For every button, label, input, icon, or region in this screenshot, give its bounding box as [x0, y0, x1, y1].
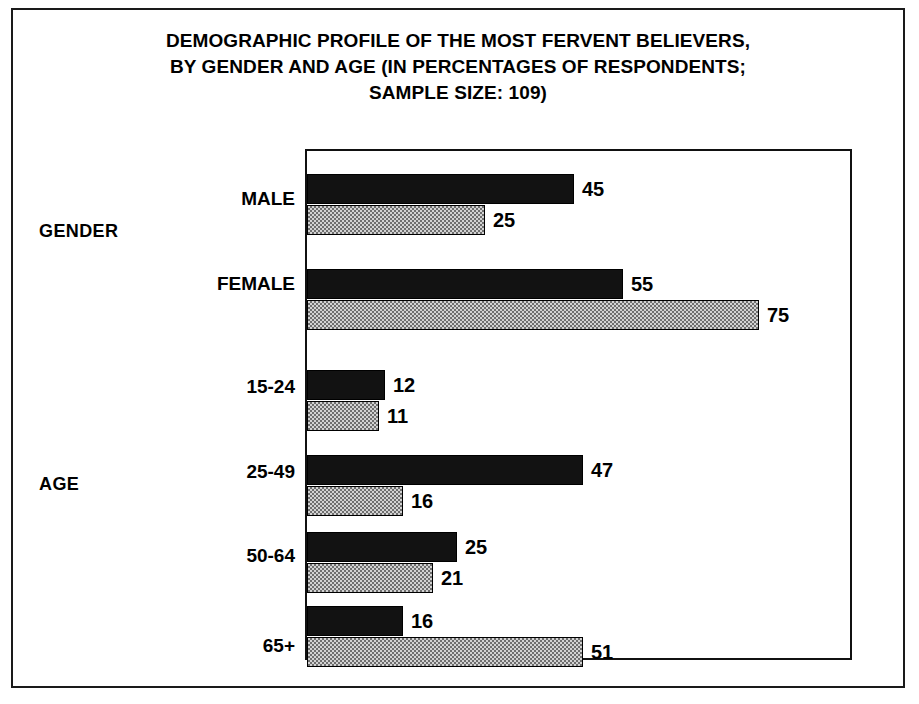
plot-area: 45 25 55 75 12 11 47 16 25 21 16 51: [305, 149, 852, 660]
bar-25-49-stipple: [307, 486, 403, 516]
bar-value-male-stipple: 25: [493, 210, 515, 230]
bar-value-50-64-dark: 25: [465, 537, 487, 557]
bar-value-65plus-stipple: 51: [591, 642, 613, 662]
category-label-65plus: 65+: [263, 636, 295, 655]
bar-female-dark: [307, 269, 623, 299]
bar-value-50-64-stipple: 21: [441, 568, 463, 588]
category-label-15-24: 15-24: [246, 377, 295, 396]
chart-title-line-3: SAMPLE SIZE: 109): [13, 80, 903, 106]
bar-male-dark: [307, 174, 574, 204]
bar-female-stipple: [307, 300, 759, 330]
bar-value-female-dark: 55: [631, 274, 653, 294]
figure-container: DEMOGRAPHIC PROFILE OF THE MOST FERVENT …: [11, 8, 905, 688]
bar-50-64-stipple: [307, 563, 433, 593]
bar-25-49-dark: [307, 455, 583, 485]
bar-65plus-dark: [307, 606, 403, 636]
category-label-25-49: 25-49: [246, 462, 295, 481]
group-label-age: AGE: [39, 475, 79, 493]
bar-value-65plus-dark: 16: [411, 611, 433, 631]
chart-title-line-2: BY GENDER AND AGE (IN PERCENTAGES OF RES…: [13, 54, 903, 80]
chart-title: DEMOGRAPHIC PROFILE OF THE MOST FERVENT …: [13, 28, 903, 106]
category-label-female: FEMALE: [217, 274, 295, 293]
bar-15-24-dark: [307, 370, 385, 400]
bar-value-15-24-stipple: 11: [387, 406, 408, 426]
bar-male-stipple: [307, 205, 485, 235]
bar-15-24-stipple: [307, 401, 379, 431]
category-label-50-64: 50-64: [246, 546, 295, 565]
bar-65plus-stipple: [307, 637, 583, 667]
bar-50-64-dark: [307, 532, 457, 562]
bar-value-15-24-dark: 12: [393, 375, 415, 395]
category-label-male: MALE: [241, 189, 295, 208]
bar-value-25-49-dark: 47: [591, 460, 613, 480]
category-label-column: MALE FEMALE 15-24 25-49 50-64 65+: [123, 149, 295, 660]
group-label-gender: GENDER: [39, 222, 118, 240]
bar-value-male-dark: 45: [582, 179, 604, 199]
bar-value-25-49-stipple: 16: [411, 491, 433, 511]
bar-value-female-stipple: 75: [767, 305, 789, 325]
chart-title-line-1: DEMOGRAPHIC PROFILE OF THE MOST FERVENT …: [13, 28, 903, 54]
